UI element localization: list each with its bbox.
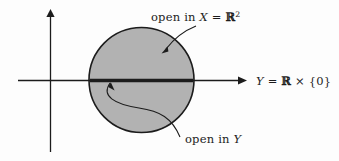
label-open-in-x: open in X = ℝ2 (151, 10, 240, 24)
label-open-in-x-set: ℝ (225, 10, 235, 24)
label-open-in-y-variable: Y (234, 132, 243, 146)
label-y-axis-set-set: ℝ (281, 74, 291, 88)
vertical-axis-arrowhead (46, 9, 54, 17)
label-open-in-y-prefix: open in (185, 132, 234, 146)
label-y-axis-set-times: × (291, 74, 309, 88)
label-open-in-y: open in Y (185, 132, 243, 146)
figure-container: open in X = ℝ2 Y = ℝ × {0} open in Y (0, 0, 339, 161)
horizontal-axis-arrowhead (238, 76, 247, 84)
label-y-axis-set-equals: = (264, 74, 282, 88)
label-y-axis-set-singleton: {0} (309, 74, 332, 88)
label-open-in-x-prefix: open in (151, 10, 200, 24)
label-y-axis-set: Y = ℝ × {0} (256, 74, 331, 88)
label-open-in-x-equals: = (208, 10, 226, 24)
diagram-canvas: open in X = ℝ2 Y = ℝ × {0} open in Y (0, 0, 339, 161)
label-open-in-x-exponent: 2 (235, 10, 240, 19)
